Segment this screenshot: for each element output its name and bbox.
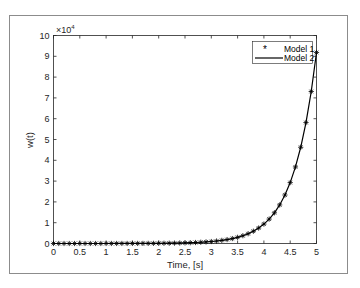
y-tick-label: 7 [44,93,49,103]
y-tick-label: 9 [44,51,49,61]
x-tick-label: 2 [156,247,161,257]
x-tick-label: 3.5 [231,247,244,257]
x-tick-label: 1.5 [126,247,139,257]
x-tick-label: 0.5 [74,247,87,257]
plot-axes: 00.511.522.533.544.55 012345678910 [39,31,319,257]
legend-marker-model-1: * [263,44,267,55]
figure: 00.511.522.533.544.55 012345678910 ×104 … [0,0,360,288]
y-tick-label: 3 [44,176,49,186]
x-tick-label: 3 [209,247,214,257]
x-tick-label: 5 [314,247,319,257]
y-tick-label: 4 [44,155,49,165]
x-tick-label: 1 [104,247,109,257]
x-axis-label: Time, [s] [167,259,203,270]
y-tick-label: 0 [44,239,49,249]
legend-label-model-2: Model 2 [284,53,315,63]
y-axis-label: w(t) [24,132,35,149]
plot-area [54,36,317,244]
x-tick-label: 4 [261,247,266,257]
y-tick-label: 10 [39,31,49,41]
y-tick-label: 2 [44,197,49,207]
y-tick-label: 5 [44,135,49,145]
x-tick-label: 0 [51,247,56,257]
x-tick-label: 2.5 [179,247,192,257]
legend: * Model 1 Model 2 [253,42,315,64]
y-tick-label: 6 [44,114,49,124]
x-tick-label: 4.5 [284,247,297,257]
y-tick-label: 1 [44,218,49,228]
y-tick-label: 8 [44,72,49,82]
